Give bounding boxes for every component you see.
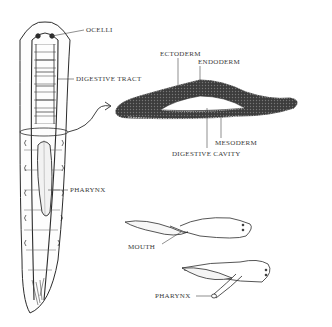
planarian-diagram: OCELLI DIGESTIVE TRACT PHARYNX ECTODERM … — [0, 0, 332, 327]
label-pharynx-body: PHARYNX — [70, 186, 106, 194]
feeding-view-mouth — [125, 218, 251, 244]
label-digestive-tract: DIGESTIVE TRACT — [76, 75, 142, 83]
label-digestive-cavity: DIGESTIVE CAVITY — [172, 150, 241, 158]
label-mesoderm: MESODERM — [215, 139, 257, 147]
label-ectoderm: ECTODERM — [160, 50, 201, 58]
label-mouth: MOUTH — [128, 243, 155, 251]
planarian-whole-body — [20, 22, 70, 313]
label-ocelli: OCELLI — [86, 26, 113, 34]
label-pharynx-extended: PHARYNX — [155, 292, 191, 300]
feeding-view-pharynx — [182, 260, 270, 298]
cross-section-arrow — [68, 102, 111, 132]
label-endoderm: ENDODERM — [198, 58, 240, 66]
cross-section — [116, 80, 297, 119]
